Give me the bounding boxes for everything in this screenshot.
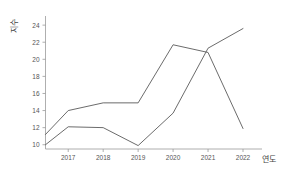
y-axis-title: 지수 <box>10 19 19 33</box>
y-tick-label: 16 <box>32 90 40 97</box>
series-line-series-2 <box>46 29 244 146</box>
x-tick-label: 2019 <box>131 154 146 161</box>
series-line-series-1 <box>46 45 244 135</box>
y-tick-label: 22 <box>32 39 40 46</box>
x-tick-label: 2018 <box>96 154 111 161</box>
x-tick-label: 2020 <box>166 154 181 161</box>
line-chart-figure: 1012141618202224 20172018201920202021202… <box>0 0 291 179</box>
y-tick-label: 14 <box>32 107 40 114</box>
y-axis: 1012141618202224 <box>32 16 45 149</box>
x-tick-label: 2022 <box>236 154 251 161</box>
y-tick-label: 12 <box>32 124 40 131</box>
chart-canvas: 1012141618202224 20172018201920202021202… <box>0 0 291 179</box>
data-series-group <box>46 29 244 146</box>
y-tick-label: 20 <box>32 56 40 63</box>
x-axis: 201720182019202020212022 <box>46 149 263 161</box>
y-tick-label: 18 <box>32 73 40 80</box>
x-axis-title: 연도 <box>262 155 276 164</box>
y-tick-label: 24 <box>32 22 40 29</box>
x-tick-label: 2017 <box>61 154 76 161</box>
x-tick-label: 2021 <box>201 154 216 161</box>
y-tick-label: 10 <box>32 141 40 148</box>
